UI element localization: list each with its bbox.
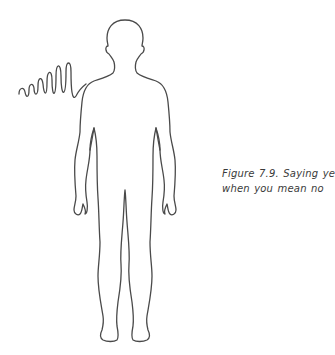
- squiggle-wave-icon: [19, 63, 86, 97]
- figure-caption: Figure 7.9. Saying yes when you mean no: [222, 166, 334, 196]
- caption-line-2: when you mean no: [222, 181, 334, 196]
- human-body-outline: [74, 20, 176, 342]
- caption-line-1: Figure 7.9. Saying yes: [222, 166, 334, 181]
- figure-canvas: Figure 7.9. Saying yes when you mean no: [0, 0, 335, 355]
